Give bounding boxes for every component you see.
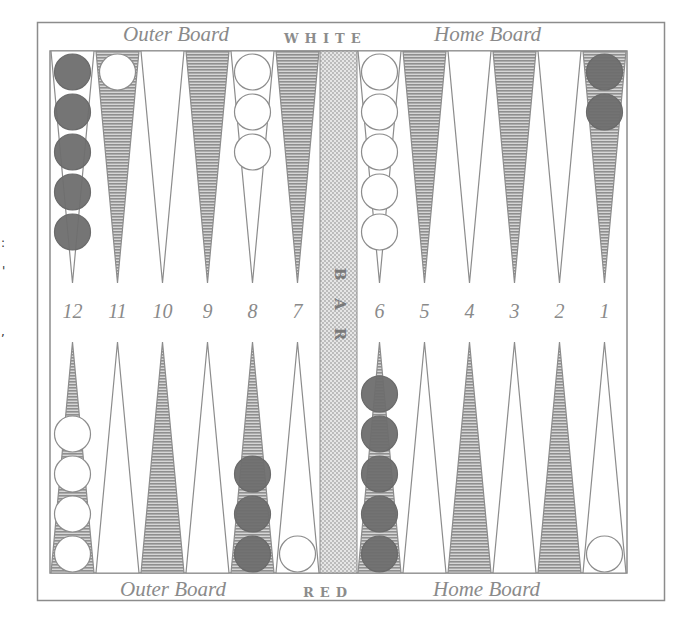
point-number-4: 4 (450, 300, 490, 323)
red-checker-top-1[interactable] (587, 94, 623, 130)
point-number-12: 12 (53, 300, 93, 323)
white-checker-top-11[interactable] (100, 54, 136, 90)
point-number-6: 6 (360, 300, 400, 323)
point-number-2: 2 (540, 300, 580, 323)
red-checker-top-12[interactable] (55, 54, 91, 90)
edge-mark-2: ' (2, 264, 5, 278)
point-number-9: 9 (188, 300, 228, 323)
red-checker-bottom-8[interactable] (235, 496, 271, 532)
red-checker-bottom-8[interactable] (235, 536, 271, 572)
red-checker-bottom-6[interactable] (362, 456, 398, 492)
top-right-label: Home Board (434, 22, 541, 47)
white-checker-top-8[interactable] (235, 94, 271, 130)
bottom-left-label: Outer Board (120, 577, 226, 602)
red-checker-bottom-8[interactable] (235, 456, 271, 492)
edge-mark-1: : (1, 236, 5, 250)
white-checker-bottom-1[interactable] (587, 536, 623, 572)
bar-letter-r: R (331, 328, 349, 346)
white-checker-top-6[interactable] (362, 134, 398, 170)
red-checker-top-12[interactable] (55, 174, 91, 210)
backgammon-board-figure: Outer Board WHITE Home Board Outer Board… (0, 0, 674, 621)
point-number-3: 3 (495, 300, 535, 323)
top-left-label: Outer Board (123, 22, 229, 47)
white-checker-top-6[interactable] (362, 214, 398, 250)
red-checker-bottom-6[interactable] (362, 376, 398, 412)
red-checker-bottom-6[interactable] (362, 536, 398, 572)
point-number-8: 8 (233, 300, 273, 323)
bottom-side-label: RED (303, 585, 353, 600)
red-checker-top-12[interactable] (55, 214, 91, 250)
white-checker-top-6[interactable] (362, 94, 398, 130)
red-checker-top-12[interactable] (55, 134, 91, 170)
point-number-1: 1 (585, 300, 625, 323)
red-checker-top-1[interactable] (587, 54, 623, 90)
red-checker-bottom-6[interactable] (362, 416, 398, 452)
red-checker-top-12[interactable] (55, 94, 91, 130)
white-checker-bottom-12[interactable] (55, 536, 91, 572)
bar-letter-a: A (331, 298, 349, 316)
point-number-5: 5 (405, 300, 445, 323)
point-number-10: 10 (143, 300, 183, 323)
white-checker-top-8[interactable] (235, 54, 271, 90)
point-number-7: 7 (278, 300, 318, 323)
white-checker-top-8[interactable] (235, 134, 271, 170)
white-checker-bottom-12[interactable] (55, 416, 91, 452)
white-checker-bottom-12[interactable] (55, 496, 91, 532)
bar-letter-b: B (331, 268, 349, 287)
white-checker-top-6[interactable] (362, 54, 398, 90)
top-side-label: WHITE (284, 31, 367, 46)
point-number-11: 11 (98, 300, 138, 323)
bottom-right-label: Home Board (433, 577, 540, 602)
white-checker-bottom-7[interactable] (280, 536, 316, 572)
red-checker-bottom-6[interactable] (362, 496, 398, 532)
edge-mark-3: , (1, 325, 5, 339)
white-checker-bottom-12[interactable] (55, 456, 91, 492)
white-checker-top-6[interactable] (362, 174, 398, 210)
